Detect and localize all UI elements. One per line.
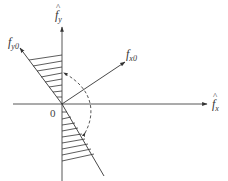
lower-hatch bbox=[62, 112, 94, 161]
y-axis-label: ^fy bbox=[55, 9, 62, 24]
fy0-extension-line bbox=[62, 104, 104, 176]
frequency-rotation-diagram bbox=[0, 0, 228, 181]
x-axis-label-sub: x bbox=[215, 104, 219, 113]
upper-hatch bbox=[29, 55, 62, 97]
fx0-label-sub: x0 bbox=[129, 54, 137, 63]
y-axis-label-sub: y bbox=[58, 15, 62, 24]
fy0-label-sub: y0 bbox=[11, 42, 19, 51]
fx0-vector bbox=[62, 62, 125, 104]
fy0-label: fy0 bbox=[8, 36, 19, 51]
hat-symbol: ^ bbox=[213, 92, 217, 101]
x-axis-label: ^fx bbox=[212, 98, 219, 113]
origin-label: 0 bbox=[50, 107, 56, 119]
fx0-label: fx0 bbox=[126, 48, 137, 63]
fy0-vector bbox=[20, 48, 62, 104]
hat-symbol: ^ bbox=[56, 3, 60, 12]
